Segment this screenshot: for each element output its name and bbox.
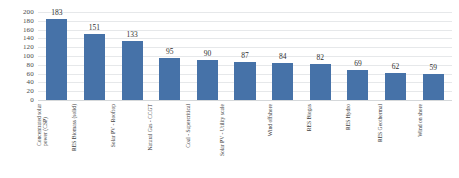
category-slot: Wind on shore xyxy=(414,102,452,176)
x-axis-category-label: Concentrated solar power (CSP) xyxy=(36,104,48,146)
category-slot: Wind offshore xyxy=(264,102,302,176)
bar-value-label: 82 xyxy=(317,54,325,62)
category-slot: RES Hydro xyxy=(339,102,377,176)
x-axis-category-label: Natural Gas - CCGT xyxy=(147,104,153,150)
category-slot: Natural Gas - CCGT xyxy=(151,102,189,176)
bar-value-label: 59 xyxy=(429,64,437,72)
bar-value-label: 87 xyxy=(241,52,249,60)
bar-slot: 59 xyxy=(414,12,452,100)
bar[interactable] xyxy=(272,63,293,100)
bar[interactable] xyxy=(310,64,331,100)
bar-slot: 151 xyxy=(76,12,114,100)
bar-slot: 133 xyxy=(113,12,151,100)
x-axis-category-label: Coal - Supercritical xyxy=(185,104,191,148)
x-axis-category-label: Solar PV - Utility scale xyxy=(219,104,225,156)
bar[interactable] xyxy=(347,70,368,100)
bar-value-label: 183 xyxy=(51,9,62,17)
bar-value-label: 95 xyxy=(166,48,174,56)
y-axis-tick: 200 xyxy=(23,9,34,16)
bar[interactable] xyxy=(423,74,444,100)
bar-value-label: 69 xyxy=(354,60,362,68)
y-axis-tick: 140 xyxy=(23,35,34,42)
y-axis-tick: 100 xyxy=(23,53,34,60)
category-slot: Solar PV - Rooftop xyxy=(113,102,151,176)
axis-baseline xyxy=(38,100,452,101)
y-axis-tick: 60 xyxy=(27,70,34,77)
x-axis-category-labels: Concentrated solar power (CSP)RES Biomas… xyxy=(38,102,452,176)
y-axis: 200180160140120100806040200 xyxy=(0,12,36,100)
y-axis-tick: 120 xyxy=(23,44,34,51)
bar-slot: 87 xyxy=(226,12,264,100)
bar[interactable] xyxy=(84,34,105,100)
y-axis-tick: 160 xyxy=(23,26,34,33)
x-axis-category-label: Wind offshore xyxy=(267,104,273,136)
bar-value-label: 90 xyxy=(204,50,212,58)
bar-slot: 95 xyxy=(151,12,189,100)
y-axis-tick: 40 xyxy=(27,79,34,86)
y-axis-tick: 80 xyxy=(27,61,34,68)
bar[interactable] xyxy=(122,41,143,100)
bar[interactable] xyxy=(46,19,67,100)
plot-area: 1831511339590878482696259 xyxy=(38,12,452,100)
x-axis-category-label: RES Biomass (solid) xyxy=(71,104,77,151)
y-axis-tick: 20 xyxy=(27,88,34,95)
bar-chart: 200180160140120100806040200 183151133959… xyxy=(0,0,459,178)
bar[interactable] xyxy=(385,73,406,100)
bar[interactable] xyxy=(234,62,255,100)
y-axis-tick: 0 xyxy=(30,97,34,104)
bar-value-label: 133 xyxy=(126,31,137,39)
bar[interactable] xyxy=(197,60,218,100)
bar-value-label: 84 xyxy=(279,53,287,61)
bar-series: 1831511339590878482696259 xyxy=(38,12,452,100)
x-axis-category-label: Wind on shore xyxy=(417,104,423,137)
x-axis-category-label: RES Hydro xyxy=(345,104,351,130)
bar[interactable] xyxy=(159,58,180,100)
category-slot: RES Geothermal xyxy=(377,102,415,176)
x-axis-category-label: RES Biogas xyxy=(307,104,313,131)
category-slot: Solar PV - Utility scale xyxy=(226,102,264,176)
bar-slot: 82 xyxy=(301,12,339,100)
bar-value-label: 62 xyxy=(392,63,400,71)
bar-slot: 62 xyxy=(377,12,415,100)
bar-slot: 69 xyxy=(339,12,377,100)
bar-value-label: 151 xyxy=(89,24,100,32)
category-slot: RES Biomass (solid) xyxy=(76,102,114,176)
x-axis-category-label: Solar PV - Rooftop xyxy=(110,104,116,147)
bar-slot: 90 xyxy=(189,12,227,100)
bar-slot: 183 xyxy=(38,12,76,100)
y-axis-tick: 180 xyxy=(23,17,34,24)
category-slot: RES Biogas xyxy=(301,102,339,176)
bar-slot: 84 xyxy=(264,12,302,100)
x-axis-category-label: RES Geothermal xyxy=(377,104,383,142)
